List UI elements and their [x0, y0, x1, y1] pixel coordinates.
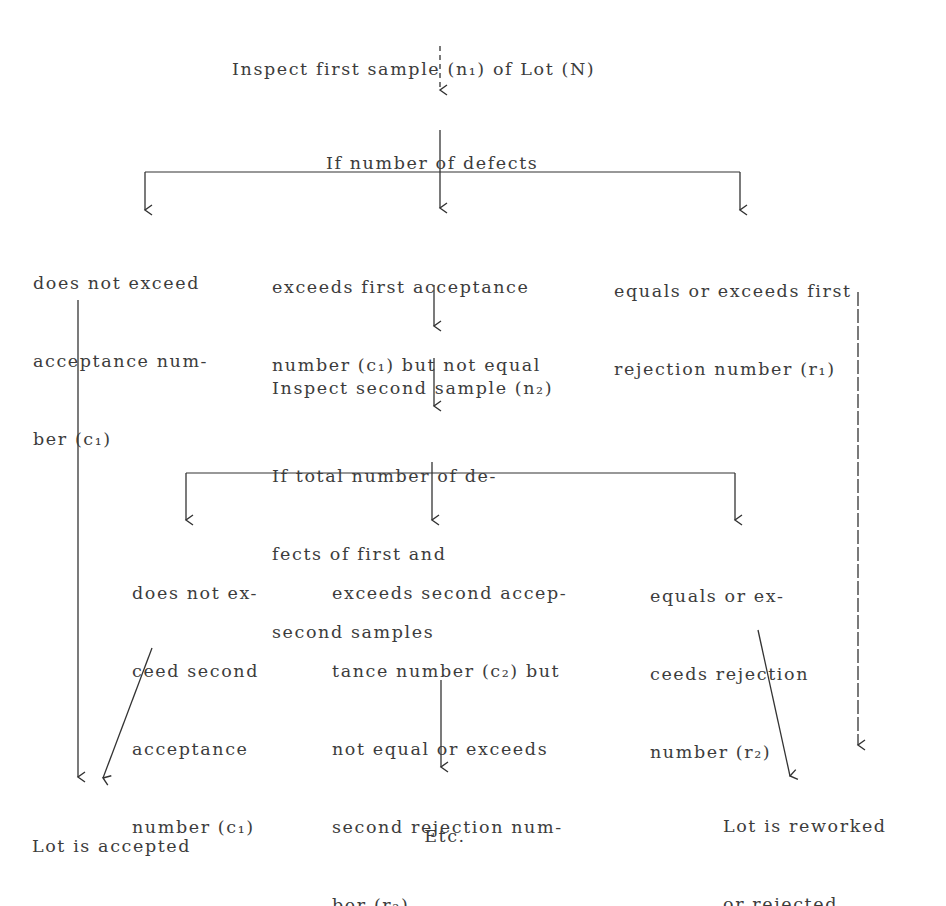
text-line: not equal or exceeds — [332, 736, 567, 762]
node-second-sample-text: Inspect second sample (n₂) — [272, 375, 553, 401]
node-branch1-right: equals or exceeds first rejection number… — [614, 226, 852, 434]
node-rejected: Lot is reworked or rejected — [723, 761, 887, 906]
text-line: exceeds first acceptance — [272, 274, 541, 300]
flowchart-canvas: Inspect first sample (n₁) of Lot (N) If … — [0, 0, 946, 906]
node-etc: Etc. until a decision to accept or rejec… — [335, 771, 555, 906]
node-start-text: Inspect first sample (n₁) of Lot (N) — [232, 56, 595, 82]
text-line: rejection number (r₁) — [614, 356, 852, 382]
text-line: until a decision to — [335, 901, 555, 906]
node-first-decision: If number of defects — [326, 98, 538, 228]
node-accepted: Lot is accepted — [32, 781, 191, 906]
text-line: ber (c₁) — [33, 426, 208, 452]
text-line: acceptance — [132, 736, 259, 762]
text-line: equals or ex- — [650, 583, 809, 609]
text-line: ceed second — [132, 658, 259, 684]
text-line: equals or exceeds first — [614, 278, 852, 304]
text-line: Etc. — [335, 823, 555, 849]
node-branch1-left: does not exceed acceptance num- ber (c₁) — [33, 218, 208, 504]
node-accepted-text: Lot is accepted — [32, 833, 191, 859]
text-line: ceeds rejection — [650, 661, 809, 687]
text-line: Lot is reworked — [723, 813, 887, 839]
text-line: does not ex- — [132, 580, 259, 606]
text-line: tance number (c₂) but — [332, 658, 567, 684]
text-line: acceptance num- — [33, 348, 208, 374]
text-line: exceeds second accep- — [332, 580, 567, 606]
text-line: or rejected — [723, 891, 887, 906]
node-first-decision-text: If number of defects — [326, 150, 538, 176]
text-line: If total number of de- — [272, 463, 497, 489]
text-line: does not exceed — [33, 270, 208, 296]
